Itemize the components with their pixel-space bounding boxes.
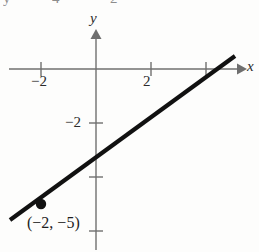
x-axis-arrow-icon	[237, 64, 247, 75]
x-tick-label-neg2: −2	[31, 74, 47, 89]
x-axis-label: x	[247, 59, 254, 74]
y-axis-label: y	[90, 11, 97, 26]
x-tick-label-pos2: 2	[143, 74, 151, 89]
plotted-point-marker	[36, 199, 46, 209]
figure-canvas: y 4 2 y x −2 2 −2 (−2, −5)	[0, 0, 259, 252]
y-tick-label-neg2: −2	[65, 115, 81, 130]
y-axis	[91, 29, 102, 250]
y-axis-arrow-icon	[91, 29, 102, 39]
point-coordinate-label: (−2, −5)	[27, 215, 80, 231]
